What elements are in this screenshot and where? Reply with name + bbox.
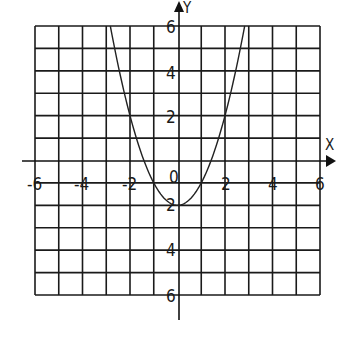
y-axis-label: Y	[182, 0, 192, 17]
x-tick-label: -2	[122, 174, 137, 194]
x-tick-label: -6	[27, 174, 42, 194]
x-tick-label: 2	[221, 174, 231, 194]
x-tick-label: -4	[74, 174, 89, 194]
y-tick-label: 6	[166, 17, 176, 37]
x-tick-label: 6	[315, 174, 325, 194]
x-axis-arrow-icon	[326, 155, 336, 167]
x-axis-label: X	[325, 136, 334, 154]
origin-label: 0	[169, 167, 179, 187]
y-tick-label: 4	[166, 63, 176, 83]
y-tick-label: 4	[166, 240, 176, 260]
x-tick-label: 4	[268, 174, 278, 194]
parabola-graph: X Y -6 -4 -2 0 2 4 6 6 4 2 2 4 6	[0, 0, 349, 338]
y-tick-label: 6	[166, 286, 176, 306]
y-tick-label: 2	[166, 107, 176, 127]
